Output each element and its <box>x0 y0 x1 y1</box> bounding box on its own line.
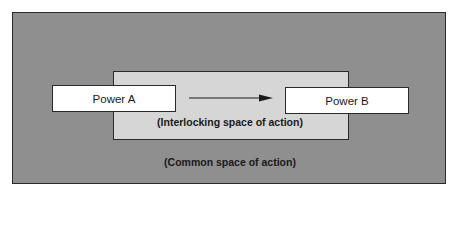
power-a-label: Power A <box>93 93 136 105</box>
power-a-node: Power A <box>52 85 176 112</box>
power-b-node: Power B <box>285 87 409 114</box>
power-b-label: Power B <box>325 95 368 107</box>
common-space-label: (Common space of action) <box>164 156 296 168</box>
arrow-a-to-b-icon <box>189 93 275 103</box>
interlocking-space-label: (Interlocking space of action) <box>157 116 303 128</box>
